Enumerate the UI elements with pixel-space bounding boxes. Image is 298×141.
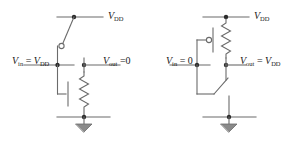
label-vout-right-equals: =: [254, 55, 265, 66]
load-resistor-zigzag-left: [80, 72, 89, 117]
label-vin-left-value-subscript: DD: [40, 60, 49, 67]
label-vin-right: Vin = 0: [166, 56, 193, 66]
label-vin-left-subscript: in: [18, 60, 23, 67]
nmos-switch-blade-right: [214, 78, 228, 94]
ground-triangle-right: [221, 124, 237, 132]
label-vout-right-value-subscript: DD: [271, 60, 280, 67]
label-vout-right-subscript: out: [246, 60, 254, 67]
label-vin-left: Vin = VDD: [12, 56, 49, 66]
label-vout-right: Vout = VDD: [240, 56, 281, 66]
circuit-schematic-svg: [0, 0, 298, 141]
label-vin-left-equals: =: [23, 55, 34, 66]
label-vout-left-subscript: out: [109, 60, 117, 67]
label-vdd-left: VDD: [108, 11, 124, 21]
label-vdd-right-subscript: DD: [260, 15, 269, 22]
pmos-switch-blade-left: [63, 17, 74, 43]
load-resistor-zigzag-right: [222, 19, 231, 58]
pmos-bubble-left: [59, 43, 64, 48]
label-vin-right-value: 0: [188, 55, 193, 66]
circuit-figure: VDD Vin = VDD Vout =0 VDD Vin = 0 Vout =…: [0, 0, 298, 141]
label-vout-left: Vout =0: [103, 56, 131, 66]
label-vdd-right: VDD: [254, 11, 270, 21]
label-vin-right-equals: =: [177, 55, 188, 66]
label-vout-left-equals: =: [117, 55, 125, 66]
label-vin-right-subscript: in: [172, 60, 177, 67]
ground-triangle-left: [76, 124, 92, 132]
label-vdd-left-subscript: DD: [114, 15, 123, 22]
pmos-bubble-right: [206, 37, 211, 42]
label-vout-left-value: 0: [126, 55, 131, 66]
label-vin-left-value-symbol: V: [34, 55, 40, 66]
